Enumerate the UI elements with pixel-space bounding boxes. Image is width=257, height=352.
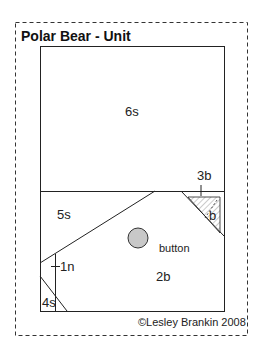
unit-title: Polar Bear - Unit <box>21 28 131 44</box>
label-3b: 3b <box>197 168 211 183</box>
label-b: b <box>209 208 216 223</box>
label-4s: 4s <box>42 295 56 310</box>
label-5s: 5s <box>57 207 71 222</box>
label-button: button <box>159 242 190 254</box>
copyright-text: ©Lesley Brankin 2008 <box>138 316 246 328</box>
pattern-diagram: Polar Bear - Unit 6s 5s 3b b button 2b 1… <box>0 0 257 352</box>
button-placement-circle <box>128 228 148 248</box>
label-6s: 6s <box>125 104 139 119</box>
label-2b: 2b <box>156 269 170 284</box>
label-1n: 1n <box>60 259 74 274</box>
seam-5s <box>40 191 155 263</box>
